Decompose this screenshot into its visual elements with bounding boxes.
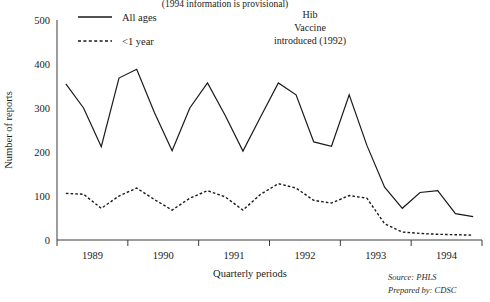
hib-reports-chart: (1994 information is provisional) 010020… xyxy=(0,0,490,302)
x-axis-title: Quarterly periods xyxy=(213,268,287,279)
y-tick-label: 200 xyxy=(34,147,50,158)
x-tick-label: 1992 xyxy=(294,250,315,261)
x-axis: 198919901991199219931994 xyxy=(57,240,482,261)
x-tick-marks xyxy=(57,240,482,246)
legend: All ages <1 year xyxy=(78,12,157,47)
x-tick-label: 1993 xyxy=(365,250,386,261)
x-tick-label: 1989 xyxy=(82,250,103,261)
legend-label-under-1-year: <1 year xyxy=(122,36,154,47)
x-tick-label: 1990 xyxy=(153,250,174,261)
annotation-line-1: Hib xyxy=(303,9,318,20)
annotation-line-3: introduced (1992) xyxy=(274,35,346,47)
annotation-line-2: Vaccine xyxy=(294,22,326,33)
annotation-hib-vaccine: Hib Vaccine introduced (1992) xyxy=(274,9,346,47)
x-tick-labels: 198919901991199219931994 xyxy=(82,250,458,261)
y-axis: 0100200300400500 xyxy=(34,15,57,246)
provisional-note: (1994 information is provisional) xyxy=(162,0,288,10)
y-tick-label: 400 xyxy=(34,59,50,70)
y-tick-labels: 0100200300400500 xyxy=(34,15,50,246)
x-tick-label: 1991 xyxy=(224,250,245,261)
series-line-all-ages xyxy=(66,69,473,216)
y-tick-label: 300 xyxy=(34,103,50,114)
credit-prepared-by: Prepared by: CDSC xyxy=(387,285,457,295)
y-tick-label: 100 xyxy=(34,191,50,202)
y-axis-title: Number of reports xyxy=(3,91,14,169)
y-tick-label: 500 xyxy=(34,15,50,26)
x-tick-label: 1994 xyxy=(436,250,458,261)
chart-svg: (1994 information is provisional) 010020… xyxy=(0,0,490,302)
credits: Source: PHLS Prepared by: CDSC xyxy=(387,272,457,295)
series-line-under-1-year xyxy=(66,184,473,235)
credit-source: Source: PHLS xyxy=(388,272,437,282)
legend-label-all-ages: All ages xyxy=(122,12,157,23)
y-tick-label: 0 xyxy=(45,235,50,246)
